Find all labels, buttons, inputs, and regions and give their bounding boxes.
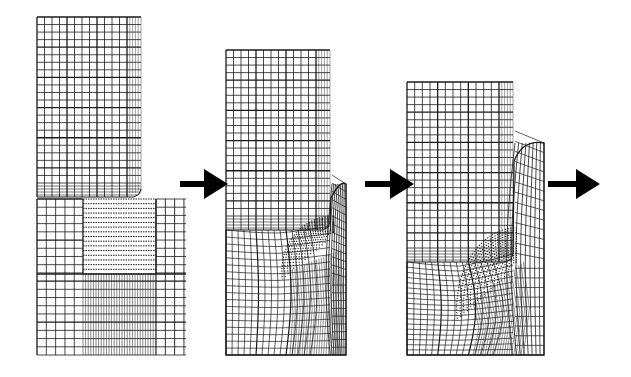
workpiece-mesh — [37, 199, 186, 355]
punch-mesh — [37, 17, 141, 197]
stage-advanced-mesh — [407, 82, 544, 355]
stage-initial-mesh — [37, 17, 186, 355]
arrow-3 — [548, 169, 600, 199]
stage-intermediate-mesh — [226, 50, 346, 355]
sequence-arrows — [180, 169, 600, 199]
arrow-head-icon — [390, 169, 414, 199]
arrow-head-icon — [204, 169, 228, 199]
stage-3-label: Advanced deformation — [0, 0, 11, 1]
arrow-head-icon — [576, 169, 600, 199]
arrow-1 — [180, 169, 228, 199]
punch-mesh — [226, 50, 330, 230]
mesh-deformation-diagram — [0, 0, 631, 377]
